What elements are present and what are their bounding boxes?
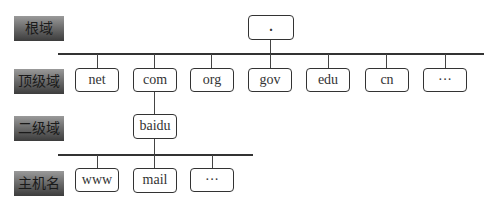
connector-com	[154, 54, 155, 69]
host-bus-line	[58, 154, 253, 156]
host-node-mail: mail	[133, 168, 177, 193]
connector-net	[97, 54, 98, 69]
root-node: .	[248, 15, 294, 40]
connector-more-host	[212, 155, 213, 169]
connector-cn	[386, 54, 387, 69]
connector-org	[211, 54, 212, 69]
connector-www	[97, 155, 98, 169]
tld-node-org: org	[190, 68, 234, 92]
tld-node-cn: cn	[365, 68, 409, 92]
tld-node-gov: gov	[248, 68, 292, 92]
connector-edu	[328, 54, 329, 69]
tld-node-edu: edu	[306, 68, 350, 92]
level-label-tld: 顶级域	[14, 69, 64, 94]
connector-mail	[154, 155, 155, 169]
second-node-baidu: baidu	[133, 114, 177, 139]
tld-node-com: com	[133, 68, 177, 92]
connector-gov	[270, 54, 271, 69]
connector-root	[270, 40, 271, 54]
tld-node-net: net	[75, 68, 119, 92]
connector-com-baidu	[154, 92, 155, 114]
level-label-second: 二级域	[14, 116, 64, 141]
host-node-www: www	[75, 168, 119, 192]
connector-more-tld	[445, 54, 446, 69]
tld-node-more: ···	[423, 68, 467, 92]
level-label-host: 主机名	[14, 171, 64, 196]
host-node-more: ···	[190, 168, 234, 192]
level-label-root: 根域	[14, 16, 64, 41]
